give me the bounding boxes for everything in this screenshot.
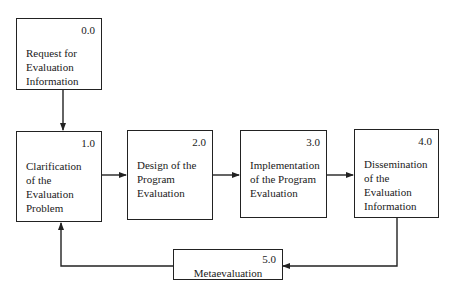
node-request-for-evaluation: 0.0 Request for Evaluation Information (16, 18, 102, 90)
node-implementation: 3.0 Implementation of the Program Evalua… (240, 130, 327, 218)
node-metaevaluation: 5.0 Metaevaluation (173, 249, 283, 280)
node-design: 2.0 Design of the Program Evaluation (127, 130, 213, 220)
node-clarification: 1.0 Clarification of the Evaluation Prob… (16, 131, 102, 222)
node-number: 0.0 (81, 24, 95, 36)
node-dissemination: 4.0 Dissemination of the Evaluation Info… (354, 129, 439, 218)
node-label: Implementation of the Program Evaluation (250, 158, 320, 200)
node-label: Design of the Program Evaluation (137, 158, 196, 200)
edge-4-to-5 (283, 218, 397, 266)
node-label: Clarification of the Evaluation Problem (26, 159, 82, 215)
node-number: 2.0 (192, 136, 206, 148)
node-number: 1.0 (81, 137, 95, 149)
node-label: Metaevaluation (174, 266, 282, 280)
node-label: Dissemination of the Evaluation Informat… (364, 157, 428, 213)
node-number: 3.0 (306, 136, 320, 148)
node-number: 4.0 (418, 135, 432, 147)
node-label: Request for Evaluation Information (26, 46, 79, 88)
node-number: 5.0 (262, 253, 276, 265)
edge-5-to-1 (61, 223, 173, 266)
